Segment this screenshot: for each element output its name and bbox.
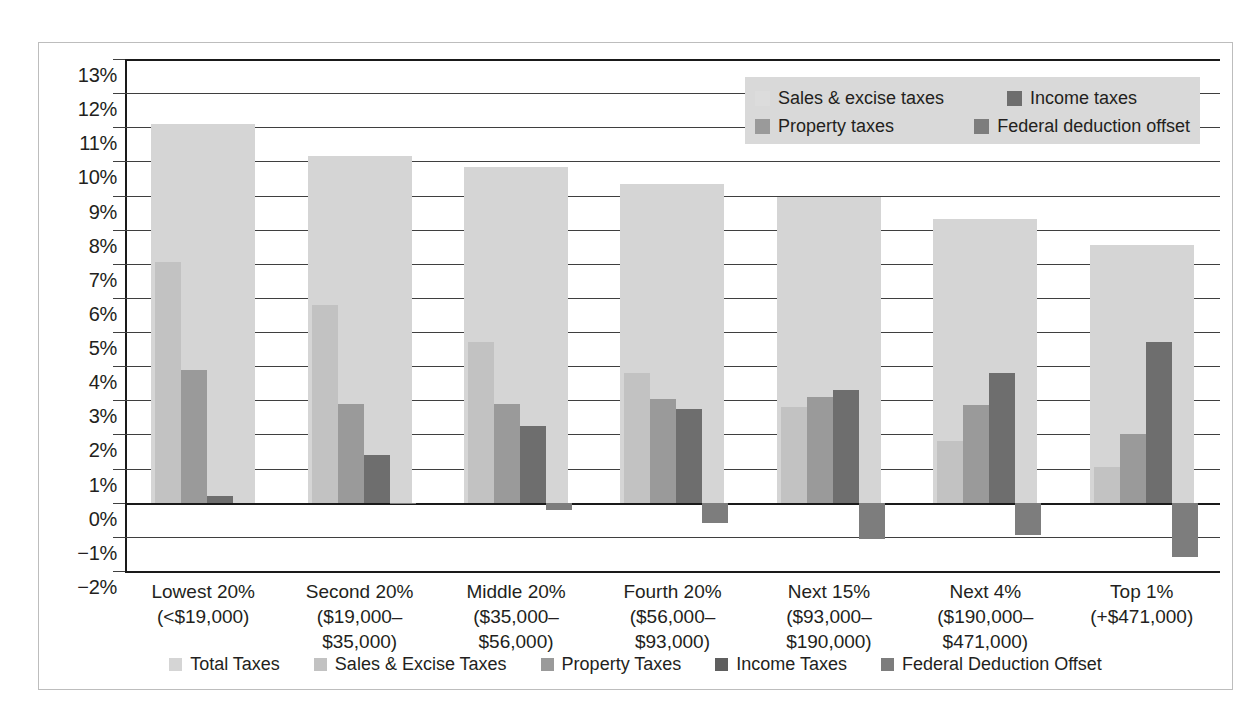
bar-income-taxes — [676, 409, 702, 503]
y-axis-tick-label: 3% — [89, 405, 117, 428]
bar-property-taxes — [1120, 434, 1146, 502]
bar-group — [594, 59, 750, 571]
x-axis-category-label: Middle 20%($35,000–$56,000) — [438, 579, 594, 654]
y-axis-tick-label: −2% — [77, 576, 117, 599]
legend-label: Income Taxes — [736, 654, 847, 675]
y-axis-tick — [113, 434, 125, 435]
x-axis-category-label: Second 20%($19,000–$35,000) — [281, 579, 437, 654]
x-label-line-2: ($56,000– — [594, 604, 750, 629]
bar-federal-deduction-offset — [1015, 503, 1041, 535]
y-axis-tick-label: 12% — [78, 98, 117, 121]
y-axis-tick-label: 2% — [89, 439, 117, 462]
y-axis-tick — [113, 571, 125, 572]
bar-sales-excise-taxes — [155, 262, 181, 503]
inner-legend: Sales & excise taxes Income taxes Proper… — [745, 77, 1200, 144]
y-axis-tick — [113, 264, 125, 265]
inner-legend-row-1: Sales & excise taxes Income taxes — [755, 84, 1190, 112]
bar-income-taxes — [207, 496, 233, 503]
legend-item-income-taxes: Income Taxes — [715, 654, 847, 675]
inner-legend-label: Income taxes — [1030, 88, 1137, 109]
bar-sales-excise-taxes — [781, 407, 807, 503]
x-axis-category-label: Fourth 20%($56,000–$93,000) — [594, 579, 750, 654]
bar-group — [125, 59, 281, 571]
bar-property-taxes — [181, 370, 207, 503]
bar-sales-excise-taxes — [937, 441, 963, 502]
x-label-line-1: Next 4% — [949, 581, 1021, 602]
y-axis-tick — [113, 537, 125, 538]
x-label-line-1: Next 15% — [788, 581, 870, 602]
x-axis-category-label: Next 4%($190,000–$471,000) — [907, 579, 1063, 654]
x-label-line-2: ($93,000– — [751, 604, 907, 629]
inner-legend-item-property: Property taxes — [755, 116, 974, 137]
bar-income-taxes — [989, 373, 1015, 503]
inner-legend-item-sales-excise: Sales & excise taxes — [755, 88, 1007, 109]
legend-swatch-icon — [1007, 91, 1022, 106]
bar-federal-deduction-offset — [546, 503, 572, 510]
y-axis-tick-label: 5% — [89, 337, 117, 360]
bar-group — [438, 59, 594, 571]
y-axis-tick-label: 10% — [78, 166, 117, 189]
y-axis-tick-label: 0% — [89, 507, 117, 530]
inner-legend-label: Federal deduction offset — [997, 116, 1190, 137]
y-axis-labels: 13%12%11%10%9%8%7%6%5%4%3%2%1%0%−1%−2% — [51, 59, 117, 571]
plot-wrapper: 13%12%11%10%9%8%7%6%5%4%3%2%1%0%−1%−2% L… — [39, 43, 1232, 689]
legend-swatch-icon — [755, 91, 770, 106]
legend-label: Sales & Excise Taxes — [335, 654, 507, 675]
x-label-line-1: Middle 20% — [466, 581, 565, 602]
y-axis-tick — [113, 196, 125, 197]
bar-sales-excise-taxes — [468, 342, 494, 502]
y-axis-tick — [113, 366, 125, 367]
bottom-legend: Total TaxesSales & Excise TaxesProperty … — [39, 649, 1232, 679]
x-label-line-1: Second 20% — [306, 581, 414, 602]
inner-legend-item-income: Income taxes — [1007, 88, 1137, 109]
x-label-line-2: ($35,000– — [438, 604, 594, 629]
bar-property-taxes — [963, 405, 989, 502]
x-label-line-2: (+$471,000) — [1064, 604, 1220, 629]
legend-swatch-icon — [169, 658, 182, 671]
x-label-line-1: Top 1% — [1110, 581, 1173, 602]
x-label-line-1: Lowest 20% — [151, 581, 255, 602]
y-axis-tick-label: 11% — [79, 132, 117, 155]
y-axis-tick — [113, 400, 125, 401]
y-axis-tick-label: 9% — [89, 200, 117, 223]
bar-property-taxes — [494, 404, 520, 503]
x-label-line-2: ($19,000– — [281, 604, 437, 629]
y-axis-tick — [113, 298, 125, 299]
y-axis-tick-label: 7% — [89, 268, 117, 291]
legend-item-total-taxes: Total Taxes — [169, 654, 280, 675]
legend-label: Total Taxes — [190, 654, 280, 675]
bar-group — [281, 59, 437, 571]
bar-income-taxes — [364, 455, 390, 503]
y-axis-tick — [113, 230, 125, 231]
legend-swatch-icon — [881, 658, 894, 671]
bar-property-taxes — [807, 397, 833, 503]
bar-property-taxes — [338, 404, 364, 503]
legend-swatch-icon — [755, 119, 770, 134]
x-axis-category-label: Next 15%($93,000–$190,000) — [751, 579, 907, 654]
bar-income-taxes — [833, 390, 859, 503]
inner-legend-label: Property taxes — [778, 116, 894, 137]
gridline — [125, 571, 1220, 573]
y-axis-tick — [113, 59, 125, 60]
y-axis-tick — [113, 469, 125, 470]
legend-item-federal-deduction-offset: Federal Deduction Offset — [881, 654, 1102, 675]
y-axis-tick-label: 4% — [89, 371, 117, 394]
chart-figure: 13%12%11%10%9%8%7%6%5%4%3%2%1%0%−1%−2% L… — [38, 42, 1233, 690]
bar-federal-deduction-offset — [859, 503, 885, 539]
inner-legend-row-2: Property taxes Federal deduction offset — [755, 112, 1190, 140]
legend-label: Property Taxes — [562, 654, 682, 675]
y-axis-tick — [113, 127, 125, 128]
bar-sales-excise-taxes — [312, 305, 338, 503]
legend-swatch-icon — [541, 658, 554, 671]
legend-swatch-icon — [974, 119, 989, 134]
bar-federal-deduction-offset — [390, 503, 416, 505]
x-label-line-2: (<$19,000) — [125, 604, 281, 629]
y-axis-tick — [113, 161, 125, 162]
bar-sales-excise-taxes — [1094, 467, 1120, 503]
inner-legend-label: Sales & excise taxes — [778, 88, 944, 109]
bar-income-taxes — [520, 426, 546, 503]
legend-swatch-icon — [715, 658, 728, 671]
y-axis-tick — [113, 332, 125, 333]
bar-sales-excise-taxes — [624, 373, 650, 503]
legend-label: Federal Deduction Offset — [902, 654, 1102, 675]
